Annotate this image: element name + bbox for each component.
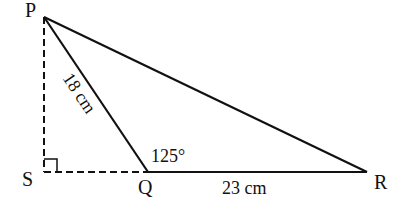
vertex-label-S: S [22,168,33,190]
vertex-label-R: R [374,171,388,193]
segment-PQ [44,17,148,172]
right-angle-marker [44,159,57,172]
vertex-label-P: P [25,0,36,21]
vertex-label-Q: Q [138,176,153,198]
angle-label-PQR: 125° [151,146,185,166]
triangle-diagram: P S Q R 18 cm 23 cm 125° [0,0,411,223]
length-label-QR: 23 cm [222,178,267,198]
